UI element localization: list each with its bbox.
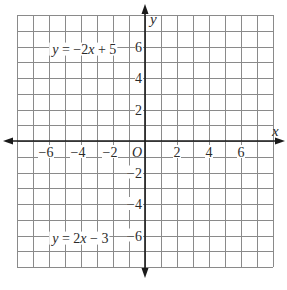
x-axis-left-arrow-icon <box>3 138 13 145</box>
y-axis-down-arrow-icon <box>142 268 149 278</box>
y-tick-label: −6 <box>127 229 142 244</box>
x-tick-label: −6 <box>39 145 54 160</box>
y-axis-label: y <box>148 11 157 27</box>
equation-label-line-2: y = 2x − 3 <box>50 231 108 246</box>
origin-label: O <box>132 145 142 160</box>
y-tick-label: −4 <box>127 197 142 212</box>
equation-label-line-1: y = −2x + 5 <box>50 42 116 57</box>
x-tick-label: −2 <box>103 145 118 160</box>
y-axis-up-arrow-icon <box>142 4 149 14</box>
x-tick-label: 6 <box>238 145 245 160</box>
y-tick-label: 2 <box>135 103 142 118</box>
y-tick-label: 6 <box>135 40 142 55</box>
y-tick-label: −2 <box>127 166 142 181</box>
y-tick-label: 4 <box>135 71 142 86</box>
x-tick-label: −4 <box>71 145 86 160</box>
coordinate-grid-chart: xyO−6−4−2246642−2−4−6 y = −2x + 5y = 2x … <box>0 0 287 290</box>
x-tick-label: 2 <box>174 145 181 160</box>
x-tick-label: 4 <box>206 145 213 160</box>
x-axis-label: x <box>271 123 279 139</box>
equation-labels: y = −2x + 5y = 2x − 3 <box>49 42 117 246</box>
